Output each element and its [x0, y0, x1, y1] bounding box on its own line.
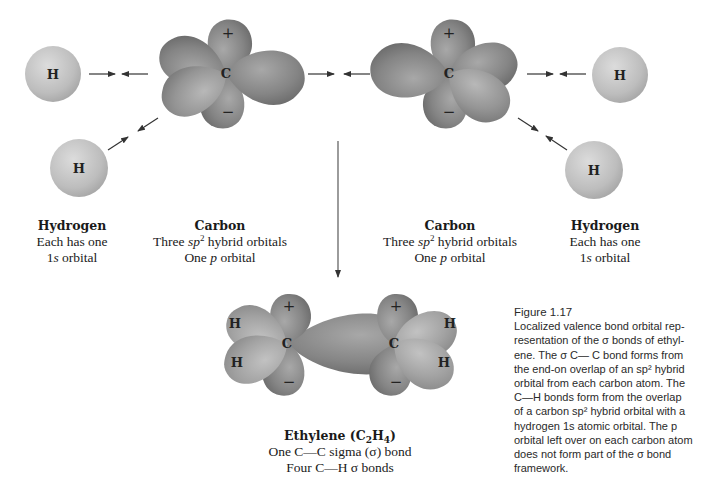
plus-sign: +	[222, 24, 235, 42]
caption-line: hydrogen 1s atomic orbital. The p	[514, 419, 719, 433]
label-line: Each has one	[555, 234, 655, 250]
minus-sign: −	[390, 373, 403, 391]
hydrogen-symbol: H	[438, 355, 450, 370]
caption-line: framework.	[514, 461, 719, 475]
caption-line: orbital from each carbon atom. The	[514, 376, 719, 390]
ethylene-molecule: + − C H H + − C H H	[216, 294, 464, 399]
hydrogen-atom-left-bottom: H	[50, 139, 108, 197]
caption-line: the end-on overlap of an sp² hybrid	[514, 362, 719, 376]
hydrogen-symbol: H	[231, 355, 243, 370]
label-hydrogen-left: Hydrogen Each has one 1s orbital	[22, 218, 122, 266]
carbon-symbol: C	[282, 336, 292, 351]
minus-sign: −	[283, 373, 296, 391]
approach-arrows-right	[518, 74, 586, 150]
label-line: 1s orbital	[22, 250, 122, 266]
carbon-symbol: C	[221, 66, 231, 81]
carbon-atom-left: + − C	[152, 20, 304, 129]
approach-arrows-left	[89, 74, 158, 150]
label-title: Hydrogen	[555, 218, 655, 234]
label-line: Three sp2 hybrid orbitals	[380, 234, 520, 250]
caption-line: resentation of the σ bonds of ethyl-	[514, 333, 719, 347]
carbon-atom-right: + − C	[370, 20, 523, 133]
label-line: One p orbital	[380, 250, 520, 266]
minus-sign: −	[222, 103, 235, 121]
caption-line: does not form part of the σ bond	[514, 447, 719, 461]
figure-caption: Figure 1.17 Localized valence bond orbit…	[514, 305, 719, 475]
caption-line: C—H bonds form from the overlap	[514, 390, 719, 404]
plus-sign: +	[443, 24, 456, 42]
label-title: Hydrogen	[22, 218, 122, 234]
plus-sign: +	[283, 297, 296, 315]
hydrogen-symbol: H	[614, 68, 626, 83]
hydrogen-symbol: H	[588, 163, 600, 178]
label-title: Ethylene (C2H4)	[250, 428, 430, 444]
caption-line: ene. The σ C— C bond forms from	[514, 348, 719, 362]
hydrogen-symbol: H	[444, 316, 456, 331]
label-carbon-right: Carbon Three sp2 hybrid orbitals One p o…	[380, 218, 520, 266]
carbon-symbol: C	[389, 336, 399, 351]
label-line: One p orbital	[150, 250, 290, 266]
caption-line: Localized valence bond orbital rep-	[514, 319, 719, 333]
hydrogen-symbol: H	[73, 161, 85, 176]
caption-line: orbital left over on each carbon atom	[514, 433, 719, 447]
hydrogen-symbol: H	[229, 316, 241, 331]
label-line: Each has one	[22, 234, 122, 250]
label-hydrogen-right: Hydrogen Each has one 1s orbital	[555, 218, 655, 266]
figure-number: Figure 1.17	[514, 305, 719, 319]
label-line: Three sp2 hybrid orbitals	[150, 234, 290, 250]
caption-line: of a carbon sp² hybrid orbital with a	[514, 404, 719, 418]
hydrogen-symbol: H	[47, 67, 59, 82]
label-line: Four C—H σ bonds	[250, 460, 430, 476]
plus-sign: +	[390, 297, 403, 315]
label-line: 1s orbital	[555, 250, 655, 266]
label-carbon-left: Carbon Three sp2 hybrid orbitals One p o…	[150, 218, 290, 266]
label-line: One C—C sigma (σ) bond	[250, 444, 430, 460]
label-title: Carbon	[150, 218, 290, 234]
label-title: Carbon	[380, 218, 520, 234]
minus-sign: −	[443, 103, 456, 121]
hydrogen-atom-right-top: H	[592, 47, 648, 103]
label-ethylene: Ethylene (C2H4) One C—C sigma (σ) bond F…	[250, 428, 430, 476]
hydrogen-atom-left-top: H	[25, 46, 81, 102]
hydrogen-atom-right-bottom: H	[565, 141, 623, 199]
carbon-symbol: C	[444, 66, 454, 81]
